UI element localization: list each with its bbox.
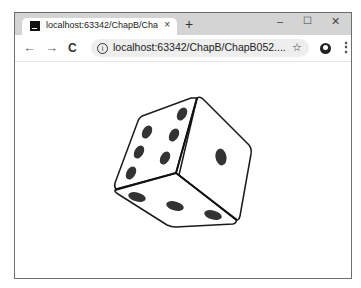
dice-illustration (1, 1, 361, 288)
page-viewport (15, 62, 351, 278)
browser-window: localhost:63342/ChapB/ChapB × + – ☐ ✕ ← … (14, 12, 352, 279)
